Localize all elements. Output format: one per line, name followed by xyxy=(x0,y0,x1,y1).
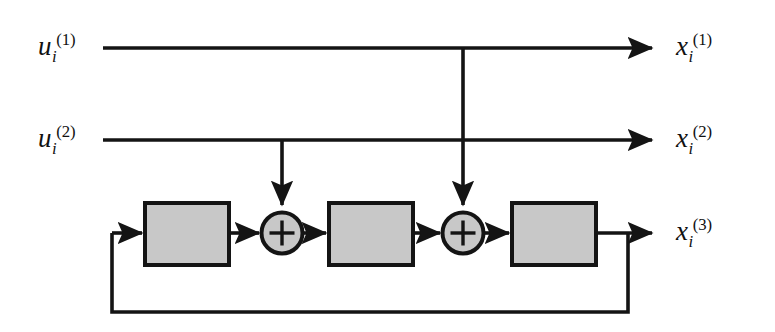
label-output-1-base: x xyxy=(676,31,688,61)
label-output-3-sub: i xyxy=(688,232,693,251)
label-output-3-sup: (3) xyxy=(693,215,713,234)
label-input-2-sub: i xyxy=(52,139,57,158)
label-input-1-base: u xyxy=(38,31,52,61)
block-2 xyxy=(329,203,413,265)
label-output-1-sub: i xyxy=(688,47,693,66)
signal-flow-diagram: ui(1) ui(2) xi(1) xi(2) xi(3) xyxy=(0,0,775,332)
label-input-2-sup: (2) xyxy=(56,122,76,141)
label-input-2-base: u xyxy=(38,123,52,153)
label-output-1-sup: (1) xyxy=(693,30,713,49)
label-input-1-sub: i xyxy=(52,47,57,66)
label-output-2-base: x xyxy=(676,123,688,153)
block-3 xyxy=(512,203,596,265)
block-1 xyxy=(145,203,229,265)
adder-2 xyxy=(443,213,484,254)
label-input-1: ui(1) xyxy=(38,32,76,66)
label-output-3-base: x xyxy=(676,216,688,246)
label-output-1: xi(1) xyxy=(676,32,712,66)
diagram-canvas xyxy=(0,0,775,332)
label-input-2: ui(2) xyxy=(38,124,76,158)
label-output-2-sub: i xyxy=(688,139,693,158)
label-input-1-sup: (1) xyxy=(56,30,76,49)
adder-1 xyxy=(262,213,303,254)
label-output-3: xi(3) xyxy=(676,217,712,251)
label-output-2-sup: (2) xyxy=(693,122,713,141)
label-output-2: xi(2) xyxy=(676,124,712,158)
